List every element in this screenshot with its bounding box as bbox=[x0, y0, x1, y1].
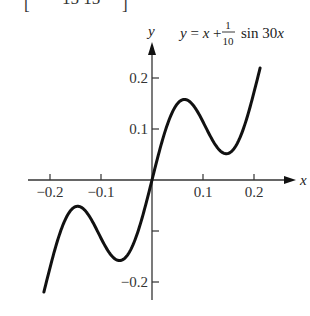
y-axis-arrow-icon bbox=[148, 42, 156, 55]
title-rhs: sin 30x bbox=[241, 25, 284, 41]
x-axis-label: x bbox=[299, 172, 307, 188]
x-tick-label: −0.1 bbox=[87, 184, 114, 200]
y-axis-label: y bbox=[146, 23, 155, 39]
chart-title: y = x + 1 10 sin 30x bbox=[178, 19, 284, 47]
x-tick-label: 0.1 bbox=[194, 184, 213, 200]
x-axis: x −0.2−0.10.10.2 bbox=[28, 172, 307, 200]
x-tick-label: −0.2 bbox=[36, 184, 63, 200]
header-fragment: [ 15 15 ] bbox=[24, 0, 128, 14]
y-tick-label: 0.1 bbox=[129, 121, 148, 137]
title-frac-num: 1 bbox=[225, 19, 231, 31]
left-bracket: [ bbox=[24, 0, 30, 14]
y-tick-label: 0.2 bbox=[129, 70, 148, 86]
header-fragment-text: 15 15 bbox=[62, 0, 100, 8]
y-tick-label: −0.2 bbox=[121, 274, 148, 290]
title-lhs: y = x + bbox=[178, 25, 222, 41]
x-tick-label: 0.2 bbox=[245, 184, 264, 200]
title-frac-den: 10 bbox=[223, 35, 235, 47]
x-axis-arrow-icon bbox=[284, 176, 296, 184]
right-bracket: ] bbox=[122, 0, 128, 14]
function-plot: [ 15 15 ] x −0.2−0.10.10.2 y 0.20.1−0.2 … bbox=[0, 0, 310, 316]
